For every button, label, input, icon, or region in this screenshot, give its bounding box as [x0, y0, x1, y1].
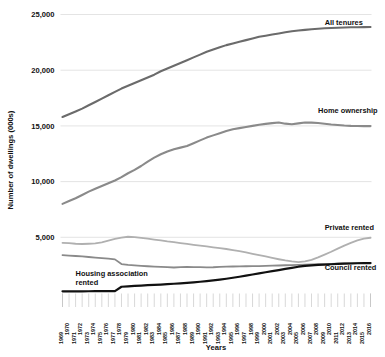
y-axis-title: Number of dwellings (000s): [6, 110, 15, 209]
y-tick-label-5000: 5,000: [35, 233, 54, 242]
x-tick-label-2015: 2015: [359, 332, 365, 344]
x-tick-label-2010: 2010: [326, 323, 332, 335]
x-tick-label-1975: 1975: [97, 332, 103, 344]
housing-tenure-line-chart: 5,00010,00015,00020,00025,000 1969197019…: [0, 0, 385, 357]
x-tick-label-2001: 2001: [267, 332, 273, 344]
x-tick-label-2011: 2011: [333, 332, 339, 344]
x-tick-label-1979: 1979: [123, 332, 129, 344]
x-tick-label-1999: 1999: [254, 332, 260, 344]
x-tick-label-1990: 1990: [195, 323, 201, 335]
x-tick-label-1972: 1972: [77, 323, 83, 335]
x-tick-label-1987: 1987: [175, 332, 181, 344]
series-label-all-tenures: All tenures: [325, 18, 363, 27]
x-tick-label-1973: 1973: [84, 332, 90, 344]
y-tick-label-15000: 15,000: [31, 122, 54, 131]
y-tick-label-10000: 10,000: [31, 177, 54, 186]
x-tick-label-2000: 2000: [261, 323, 267, 335]
x-tick-label-1980: 1980: [130, 323, 136, 335]
x-tick-label-1977: 1977: [110, 332, 116, 344]
y-tick-label-25000: 25,000: [31, 10, 54, 19]
x-tick-label-2009: 2009: [320, 332, 326, 344]
x-tick-label-1984: 1984: [156, 323, 162, 335]
x-tick-label-2008: 2008: [313, 323, 319, 335]
x-tick-label-1983: 1983: [149, 332, 155, 344]
x-tick-label-1982: 1982: [143, 323, 149, 335]
x-tick-label-2014: 2014: [352, 323, 358, 335]
x-tick-label-1970: 1970: [64, 323, 70, 335]
x-tick-label-1994: 1994: [221, 323, 227, 335]
series-label-home-ownership: Home ownership: [318, 106, 378, 115]
x-tick-label-1985: 1985: [162, 332, 168, 344]
x-axis-title: Years: [206, 343, 226, 352]
series-label-council-rented: Council rented: [325, 263, 377, 272]
x-tick-label-1998: 1998: [248, 323, 254, 335]
x-tick-label-1995: 1995: [228, 332, 234, 344]
series-label-housing-association-rented-line2: rented: [76, 278, 99, 287]
x-tick-label-2005: 2005: [293, 332, 299, 344]
chart-background: [0, 0, 385, 357]
x-tick-label-1996: 1996: [234, 323, 240, 335]
x-tick-label-1997: 1997: [241, 332, 247, 344]
x-tick-label-1969: 1969: [58, 332, 64, 344]
x-tick-label-1974: 1974: [90, 323, 96, 335]
x-tick-label-2007: 2007: [307, 332, 313, 344]
x-tick-label-1989: 1989: [189, 332, 195, 344]
chart-container: 5,00010,00015,00020,00025,000 1969197019…: [0, 0, 385, 357]
x-tick-label-2003: 2003: [280, 332, 286, 344]
x-tick-label-1978: 1978: [116, 323, 122, 335]
x-tick-label-1971: 1971: [71, 332, 77, 344]
x-tick-label-2016: 2016: [366, 323, 372, 335]
x-tick-label-2002: 2002: [274, 323, 280, 335]
x-tick-label-2012: 2012: [339, 323, 345, 335]
x-tick-label-1986: 1986: [169, 323, 175, 335]
x-tick-label-1988: 1988: [182, 323, 188, 335]
x-tick-label-1981: 1981: [136, 332, 142, 344]
x-tick-label-1992: 1992: [208, 323, 214, 335]
y-tick-label-20000: 20,000: [31, 66, 54, 75]
x-tick-label-2013: 2013: [346, 332, 352, 344]
x-tick-label-1976: 1976: [103, 323, 109, 335]
x-tick-label-2006: 2006: [300, 323, 306, 335]
x-tick-label-2004: 2004: [287, 323, 293, 335]
series-label-private-rented: Private rented: [325, 223, 375, 232]
